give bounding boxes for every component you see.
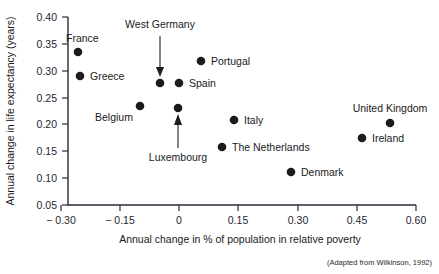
data-point-greece[interactable] xyxy=(76,72,85,81)
data-point-portugal[interactable] xyxy=(197,57,206,66)
x-tick-label: 0 xyxy=(176,214,182,226)
y-tick-label: 0.30 xyxy=(37,65,58,77)
data-point-the-netherlands[interactable] xyxy=(218,143,227,152)
x-tick-label: 0.45 xyxy=(347,214,368,226)
point-label-ireland: Ireland xyxy=(372,132,404,144)
point-label-united-kingdom: United Kingdom xyxy=(353,102,428,114)
y-tick-labels: 0.40 0.35 0.30 0.25 0.20 0.15 0.10 0.05 xyxy=(37,11,58,211)
point-label-belgium: Belgium xyxy=(95,111,133,123)
data-point-luxembourg[interactable] xyxy=(174,104,183,113)
x-tick-marks xyxy=(61,205,416,211)
point-label-west-germany: West Germany xyxy=(125,18,196,30)
point-label-france: France xyxy=(66,32,99,44)
y-tick-label: 0.25 xyxy=(37,92,58,104)
annotation-arrows-group xyxy=(156,36,182,148)
point-label-denmark: Denmark xyxy=(301,166,344,178)
y-tick-label: 0.10 xyxy=(37,172,58,184)
x-tick-labels: − 0.30 − 0.15 0 0.15 0.30 0.45 0.60 xyxy=(46,214,426,226)
data-point-ireland[interactable] xyxy=(358,134,367,143)
west-germany-arrow-head xyxy=(156,67,164,77)
source-note: (Adapted from Wilkinson, 1992) xyxy=(327,258,433,267)
point-label-portugal: Portugal xyxy=(211,55,250,67)
point-label-greece: Greece xyxy=(90,70,125,82)
y-tick-label: 0.15 xyxy=(37,145,58,157)
data-point-united-kingdom[interactable] xyxy=(386,119,395,128)
y-tick-label: 0.35 xyxy=(37,38,58,50)
x-axis-title: Annual change in % of population in rela… xyxy=(119,233,361,245)
point-labels-group: France Greece Belgium West Germany Spain… xyxy=(66,18,428,178)
data-point-denmark[interactable] xyxy=(287,168,296,177)
x-tick-label: − 0.30 xyxy=(46,214,76,226)
y-tick-label: 0.05 xyxy=(37,199,58,211)
x-tick-label: 0.30 xyxy=(288,214,309,226)
point-label-spain: Spain xyxy=(189,77,216,89)
x-tick-label: 0.15 xyxy=(228,214,249,226)
y-tick-label: 0.20 xyxy=(37,118,58,130)
scatter-plot-figure: 0.40 0.35 0.30 0.25 0.20 0.15 0.10 0.05 … xyxy=(0,0,439,274)
y-tick-label: 0.40 xyxy=(37,11,58,23)
point-label-italy: Italy xyxy=(244,114,264,126)
y-axis-title: Annual change in life expectancy (years) xyxy=(4,16,16,205)
luxembourg-arrow-head xyxy=(174,114,182,125)
x-tick-label: − 0.15 xyxy=(105,214,135,226)
plot-canvas: 0.40 0.35 0.30 0.25 0.20 0.15 0.10 0.05 … xyxy=(0,0,439,274)
data-point-france[interactable] xyxy=(74,48,83,57)
data-point-spain[interactable] xyxy=(175,79,184,88)
data-point-italy[interactable] xyxy=(230,116,239,125)
data-point-west-germany[interactable] xyxy=(156,79,165,88)
y-tick-marks xyxy=(62,17,68,205)
point-label-the-netherlands: The Netherlands xyxy=(232,141,310,153)
data-point-belgium[interactable] xyxy=(136,102,145,111)
x-tick-label: 0.60 xyxy=(406,214,427,226)
point-label-luxembourg: Luxembourg xyxy=(149,151,208,163)
